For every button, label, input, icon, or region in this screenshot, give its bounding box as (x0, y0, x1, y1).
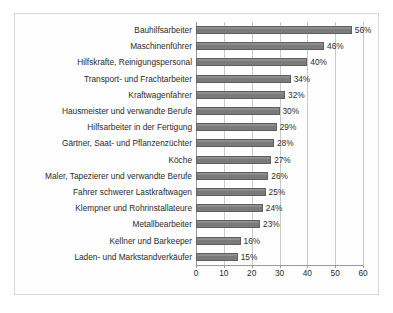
bar-value-label: 40% (307, 58, 327, 66)
bar-value-label: 15% (238, 253, 258, 261)
x-tick-label: 10 (219, 269, 228, 277)
bar-value-label: 30% (280, 107, 300, 115)
x-tick-label: 40 (303, 269, 312, 277)
category-label: Gärtner, Saat- und Pflanzenzüchter (62, 139, 192, 147)
bar (196, 91, 285, 99)
bar (196, 139, 274, 147)
bar-chart-figure: Bauhilfsarbeiter56%Maschinenführer46%Hil… (14, 13, 379, 295)
bar (196, 123, 277, 131)
bar-rows: Bauhilfsarbeiter56%Maschinenführer46%Hil… (15, 22, 380, 265)
bar-container (196, 156, 271, 164)
bar-container (196, 58, 307, 66)
bar-container (196, 91, 285, 99)
bar-row: Kraftwagenfahrer32% (15, 87, 380, 103)
category-label: Metallbearbeiter (133, 220, 193, 228)
bar (196, 220, 260, 228)
bar-container (196, 42, 324, 50)
bar (196, 58, 307, 66)
bar-value-label: 25% (266, 188, 286, 196)
bar-row: Hausmeister und verwandte Berufe30% (15, 103, 380, 119)
bar-container (196, 237, 241, 245)
category-label: Klempner und Rohrinstallateure (75, 204, 192, 212)
bar (196, 42, 324, 50)
bar-value-label: 56% (352, 26, 372, 34)
category-label: Fahrer schwerer Lastkraftwagen (73, 188, 192, 196)
bar-value-label: 34% (291, 75, 311, 83)
x-tick-label: 50 (331, 269, 340, 277)
bar-value-label: 27% (271, 155, 291, 163)
bar (196, 26, 352, 34)
bar-row: Fahrer schwerer Lastkraftwagen25% (15, 184, 380, 200)
bar (196, 253, 238, 261)
bar-row: Kellner und Barkeeper16% (15, 232, 380, 248)
category-label: Maler, Tapezierer und verwandte Berufe (45, 172, 192, 180)
category-label: Hilfskrafte, Reinigungspersonal (77, 58, 192, 66)
bar-row: Maler, Tapezierer und verwandte Berufe26… (15, 168, 380, 184)
bar-value-label: 24% (263, 204, 283, 212)
category-label: Köche (168, 155, 192, 163)
bar-row: Maschinenführer46% (15, 38, 380, 54)
category-label: Kellner und Barkeeper (109, 236, 192, 244)
bar-row: Hilfsarbeiter in der Fertigung29% (15, 119, 380, 135)
bar-row: Bauhilfsarbeiter56% (15, 22, 380, 38)
bar-container (196, 204, 263, 212)
bar-container (196, 75, 291, 83)
bar-row: Klempner und Rohrinstallateure24% (15, 200, 380, 216)
category-label: Transport- und Frachtarbeiter (84, 75, 192, 83)
category-label: Hausmeister und verwandte Berufe (62, 107, 192, 115)
category-label: Bauhilfsarbeiter (134, 26, 192, 34)
bar-row: Hilfskrafte, Reinigungspersonal40% (15, 54, 380, 70)
category-label: Hilfsarbeiter in der Fertigung (87, 123, 192, 131)
bar-container (196, 26, 352, 34)
bar-container (196, 123, 277, 131)
bar-value-label: 32% (285, 91, 305, 99)
bar-row: Laden- und Markstandverkäufer15% (15, 249, 380, 265)
bar-container (196, 220, 260, 228)
bar (196, 188, 266, 196)
bar-container (196, 107, 280, 115)
bar-row: Transport- und Frachtarbeiter34% (15, 71, 380, 87)
bar-value-label: 26% (268, 172, 288, 180)
x-tick-label: 30 (275, 269, 284, 277)
category-label: Kraftwagenfahrer (128, 91, 192, 99)
x-axis-tick-labels: 0102030405060 (196, 267, 363, 283)
x-tick-label: 20 (247, 269, 256, 277)
bar-value-label: 29% (277, 123, 297, 131)
bar (196, 237, 241, 245)
bar (196, 172, 268, 180)
bar-value-label: 46% (324, 42, 344, 50)
bar-container (196, 139, 274, 147)
bar (196, 75, 291, 83)
bar-container (196, 188, 266, 196)
x-tick-label: 0 (194, 269, 199, 277)
bar (196, 107, 280, 115)
bar (196, 156, 271, 164)
bar-container (196, 253, 238, 261)
x-tick-label: 60 (358, 269, 367, 277)
bar-row: Gärtner, Saat- und Pflanzenzüchter28% (15, 135, 380, 151)
bar-container (196, 172, 268, 180)
category-label: Maschinenführer (130, 42, 192, 50)
category-label: Laden- und Markstandverkäufer (74, 253, 192, 261)
bar-row: Köche27% (15, 152, 380, 168)
bar-value-label: 16% (241, 236, 261, 244)
bar-value-label: 28% (274, 139, 294, 147)
bar-row: Metallbearbeiter23% (15, 216, 380, 232)
bar (196, 204, 263, 212)
bar-value-label: 23% (260, 220, 280, 228)
